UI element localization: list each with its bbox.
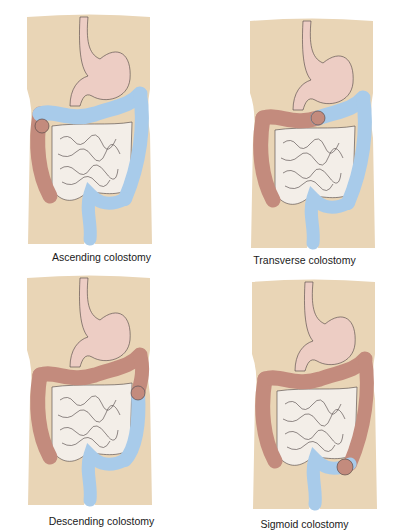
caption: Ascending colostomy (0, 251, 203, 263)
panel-transverse-colostomy: Transverse colostomy (203, 0, 406, 265)
panel-descending-colostomy: Descending colostomy (0, 265, 203, 530)
caption: Sigmoid colostomy (203, 518, 406, 530)
colon-illustration (0, 265, 203, 530)
panel-sigmoid-colostomy: Sigmoid colostomy (203, 265, 406, 530)
colon-illustration (0, 0, 203, 265)
panel-ascending-colostomy: Ascending colostomy (0, 0, 203, 265)
colon-illustration (203, 0, 406, 265)
caption: Descending colostomy (0, 515, 203, 527)
colon-illustration (203, 265, 406, 530)
